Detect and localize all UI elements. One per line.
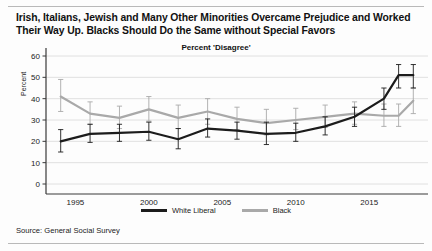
legend-label-black: Black [273, 206, 291, 215]
y-tick-label: 60 [31, 52, 40, 61]
y-tick-label: 50 [31, 73, 40, 82]
chart-figure: Irish, Italians, Jewish and Many Other M… [0, 0, 432, 251]
chart-legend: White Liberal Black [0, 206, 432, 215]
y-tick-label: 40 [31, 95, 40, 104]
legend-swatch-white-liberal [141, 209, 167, 213]
legend-swatch-black [242, 209, 268, 213]
legend-label-white-liberal: White Liberal [172, 206, 216, 215]
y-tick-label: 10 [31, 159, 40, 168]
y-tick-label: 20 [31, 137, 40, 146]
legend-item-black: Black [242, 206, 291, 215]
y-tick-label: 0 [36, 180, 41, 189]
y-tick-label: 30 [31, 116, 40, 125]
legend-item-white-liberal: White Liberal [141, 206, 216, 215]
source-note: Source: General Social Survey [16, 226, 120, 235]
